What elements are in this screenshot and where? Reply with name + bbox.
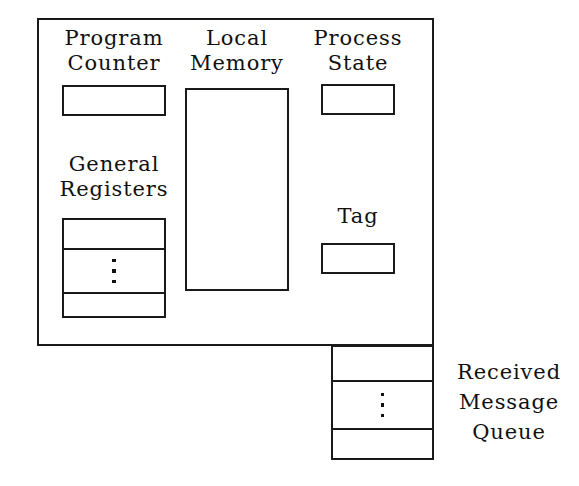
received-message-queue-label-line2: Message: [443, 388, 575, 418]
received-message-queue-label-line1: Received: [443, 358, 575, 388]
received-message-queue-stack: [331, 345, 434, 460]
general-registers-label-line1: General: [52, 152, 176, 177]
message-queue-cell: [333, 347, 432, 380]
general-register-cell-ellipsis: [64, 248, 164, 292]
vertical-ellipsis-icon: [112, 259, 116, 284]
general-registers-stack: [62, 218, 166, 318]
vertical-ellipsis-icon: [381, 393, 385, 418]
local-memory-label-line1: Local: [180, 26, 294, 51]
message-queue-cell-ellipsis: [333, 380, 432, 428]
program-counter-label: Program Counter: [52, 26, 176, 76]
process-state-label-line1: Process: [300, 26, 416, 51]
general-register-cell: [64, 220, 164, 248]
program-counter-label-line1: Program: [52, 26, 176, 51]
program-counter-label-line2: Counter: [52, 51, 176, 76]
general-registers-label-line2: Registers: [52, 177, 176, 202]
received-message-queue-label-line3: Queue: [443, 418, 575, 448]
message-queue-cell: [333, 428, 432, 458]
received-message-queue-label: Received Message Queue: [443, 358, 575, 447]
local-memory-label: Local Memory: [180, 26, 294, 76]
program-counter-box: [62, 85, 166, 116]
general-registers-label: General Registers: [52, 152, 176, 202]
tag-label-line1: Tag: [318, 204, 398, 229]
local-memory-label-line2: Memory: [180, 51, 294, 76]
general-register-cell: [64, 292, 164, 316]
tag-label: Tag: [318, 204, 398, 229]
process-state-box: [321, 84, 395, 115]
diagram-canvas: Program Counter Local Memory Process Sta…: [0, 0, 579, 486]
tag-box: [321, 243, 395, 274]
process-state-label-line2: State: [300, 51, 416, 76]
process-state-label: Process State: [300, 26, 416, 76]
local-memory-box: [185, 88, 289, 291]
